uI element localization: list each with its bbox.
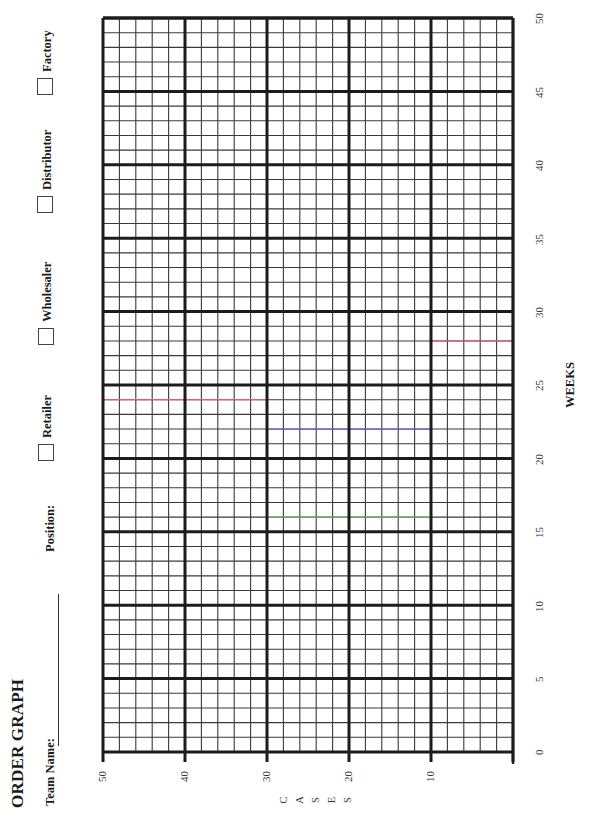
wholesaler-checkbox[interactable]: [38, 328, 54, 345]
factory-label: Factory: [40, 30, 55, 72]
week-tick-label: 45: [533, 87, 545, 98]
cases-letter: A: [294, 794, 305, 806]
cases-tick-label: 20: [342, 771, 354, 782]
week-tick-label: 50: [533, 13, 545, 24]
week-tick-label: 40: [533, 160, 545, 171]
weeks-axis-label: WEEKS: [563, 362, 578, 408]
team-name-label: Team Name:: [43, 738, 58, 806]
week-tick-label: 0: [533, 750, 545, 756]
week-tick-label: 20: [533, 454, 545, 465]
order-graph-grid: [0, 0, 594, 824]
cases-tick-label: 40: [178, 771, 190, 782]
cases-letter: S: [310, 794, 321, 806]
week-tick-label: 5: [533, 676, 545, 682]
retailer-label: Retailer: [40, 395, 55, 438]
distributor-label: Distributor: [40, 130, 55, 190]
week-tick-label: 30: [533, 307, 545, 318]
cases-letter: S: [342, 794, 353, 806]
week-tick-label: 15: [533, 527, 545, 538]
week-tick-label: 25: [533, 380, 545, 391]
cases-tick-label: 30: [260, 771, 272, 782]
cases-letter: C: [278, 794, 289, 806]
wholesaler-label: Wholesaler: [40, 262, 55, 322]
position-label: Position:: [43, 505, 58, 552]
team-name-field[interactable]: [58, 594, 59, 746]
page-title: ORDER GRAPH: [8, 679, 28, 808]
cases-letter: E: [326, 794, 337, 806]
cases-tick-label: 10: [424, 771, 436, 782]
cases-tick-label: 50: [96, 771, 108, 782]
retailer-checkbox[interactable]: [38, 444, 54, 461]
week-tick-label: 10: [533, 601, 545, 612]
week-tick-label: 35: [533, 234, 545, 245]
distributor-checkbox[interactable]: [37, 196, 53, 213]
factory-checkbox[interactable]: [37, 78, 53, 95]
